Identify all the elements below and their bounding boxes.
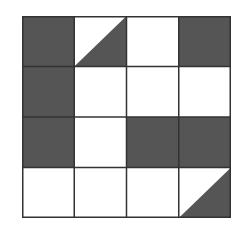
grid-cell-r3-c3-tri-lower-right (179, 168, 231, 219)
grid-cell-r0-c0-full (22, 16, 74, 67)
shaded-grid-diagram (22, 16, 231, 218)
grid-cell-r0-c3-full (179, 16, 231, 67)
grid-cell-r2-c0-full (22, 117, 74, 168)
grid-cell-r1-c0-full (22, 67, 74, 118)
grid-svg (22, 16, 231, 218)
grid-cell-r0-c1-tri-lower-right (74, 16, 126, 67)
grid-cell-r2-c1-empty (74, 117, 126, 168)
grid-cell-r1-c2-empty (127, 67, 179, 118)
grid-cell-r0-c2-empty (127, 16, 179, 67)
grid-cell-r3-c1-empty (74, 168, 126, 219)
grid-cell-r3-c0-empty (22, 168, 74, 219)
grid-cell-r2-c2-full (127, 117, 179, 168)
grid-cell-r1-c3-empty (179, 67, 231, 118)
grid-cell-r1-c1-empty (74, 67, 126, 118)
grid-cell-r3-c2-empty (127, 168, 179, 219)
grid-cell-r2-c3-full (179, 117, 231, 168)
